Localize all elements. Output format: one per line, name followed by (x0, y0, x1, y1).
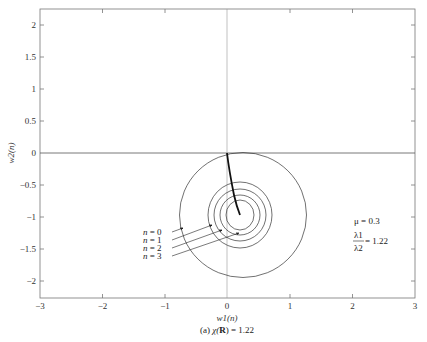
y-tick-label: −1 (26, 212, 36, 222)
y-tick-label: 1.5 (25, 52, 37, 62)
contour-n0 (180, 153, 307, 278)
label-n3: n = 3 (143, 251, 162, 261)
arrow-n1 (172, 225, 212, 240)
y-tick-label: 0 (32, 148, 37, 158)
lambda-ratio-value: = 1.22 (365, 236, 388, 246)
y-tick-label: 0.5 (25, 116, 37, 126)
x-tick-label: 2 (350, 301, 355, 311)
x-tick-label: −1 (160, 301, 170, 311)
n-labels: n = 0 n = 1 n = 2 n = 3 (143, 227, 162, 261)
lambda-denominator: λ2 (354, 243, 363, 253)
x-tick-label: −2 (98, 301, 108, 311)
y-tick-label: −0.5 (20, 180, 37, 190)
arrow-n2 (172, 230, 222, 248)
y-tick-label: 2 (32, 20, 37, 30)
y-tick-labels: −2 −1.5 −1 −0.5 0 0.5 1 1.5 2 (20, 20, 37, 286)
x-tick-label: −3 (35, 301, 45, 311)
x-axis-label: w1(n) (217, 313, 238, 323)
chart: −3 −2 −1 0 1 2 3 −2 −1.5 −1 −0.5 0 0.5 1… (0, 0, 427, 342)
figure-caption: (a) χ(R) = 1.22 (200, 325, 254, 335)
mu-label: μ = 0.3 (354, 216, 380, 226)
y-tick-label: −2 (26, 276, 36, 286)
y-tick-label: 1 (32, 84, 37, 94)
y-axis-label: w2(n) (6, 143, 16, 164)
x-tick-label: 3 (413, 301, 418, 311)
lambda-numerator: λ1 (354, 230, 363, 240)
x-tick-labels: −3 −2 −1 0 1 2 3 (35, 301, 418, 311)
y-tick-label: −1.5 (20, 244, 37, 254)
x-tick-label: 1 (288, 301, 293, 311)
x-tick-label: 0 (225, 301, 230, 311)
annotation-arrows (172, 225, 239, 256)
parameter-box: μ = 0.3 λ1 λ2 = 1.22 (353, 216, 388, 253)
contours (180, 153, 307, 278)
